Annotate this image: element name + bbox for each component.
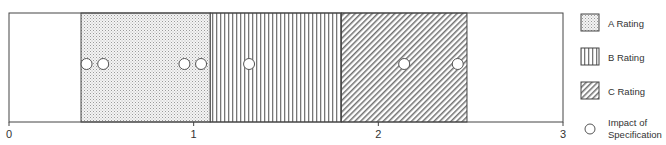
impact-point bbox=[196, 59, 207, 70]
legend-label: Impact of bbox=[608, 117, 647, 128]
impact-point bbox=[452, 59, 463, 70]
x-tick-label: 1 bbox=[191, 128, 197, 140]
legend-swatch bbox=[581, 82, 599, 99]
legend-label: C Rating bbox=[608, 86, 645, 97]
legend-item-0: A Rating bbox=[581, 14, 644, 31]
legend-item-2: C Rating bbox=[581, 82, 645, 99]
x-axis: 0123 bbox=[6, 122, 566, 140]
legend-item-3: Impact ofSpecification bbox=[585, 117, 662, 140]
impact-point bbox=[399, 59, 410, 70]
x-tick-label: 2 bbox=[375, 128, 381, 140]
rating-chart: 0123 A RatingB RatingC RatingImpact ofSp… bbox=[0, 0, 666, 145]
impact-point bbox=[244, 59, 255, 70]
impact-point bbox=[81, 59, 92, 70]
legend: A RatingB RatingC RatingImpact ofSpecifi… bbox=[581, 14, 662, 140]
impact-point bbox=[179, 59, 190, 70]
legend-item-1: B Rating bbox=[581, 48, 644, 65]
legend-swatch bbox=[581, 14, 599, 31]
x-tick-label: 0 bbox=[6, 128, 12, 140]
rating-bands bbox=[81, 13, 467, 122]
impact-point bbox=[98, 59, 109, 70]
band-b-rating bbox=[210, 13, 341, 122]
legend-label-line2: Specification bbox=[608, 129, 662, 140]
legend-label: B Rating bbox=[608, 52, 644, 63]
legend-swatch bbox=[581, 48, 599, 65]
legend-label: A Rating bbox=[608, 18, 644, 29]
x-tick-label: 3 bbox=[560, 128, 566, 140]
legend-swatch-circle bbox=[585, 124, 595, 134]
